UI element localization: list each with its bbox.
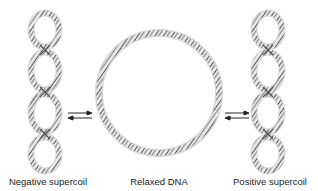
negative-supercoil — [31, 13, 59, 171]
dna-supercoil-diagram — [0, 0, 318, 191]
equilibrium-arrow-right — [225, 111, 249, 120]
relaxed-dna-label: Relaxed DNA — [118, 176, 200, 187]
relaxed-dna-circle — [99, 33, 219, 153]
positive-supercoil-label: Positive supercoil — [222, 176, 318, 187]
positive-supercoil — [254, 13, 282, 171]
equilibrium-arrow-left — [68, 111, 92, 120]
negative-supercoil-label: Negative supercoil — [0, 176, 96, 187]
